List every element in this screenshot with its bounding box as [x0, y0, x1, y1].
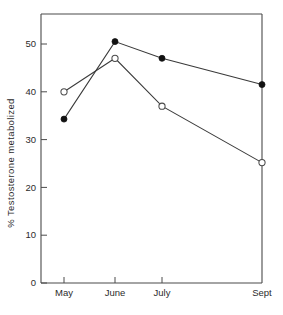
y-tick-label-30: 30: [25, 134, 36, 145]
y-tick-label-10: 10: [25, 229, 36, 240]
x-tick-label-may: May: [55, 287, 73, 298]
data-point-open-sept: [259, 160, 265, 166]
x-tick-label-july: July: [154, 287, 171, 298]
line-chart-svg: 0 10 20 30 40 50 May June July Sept % Te…: [0, 0, 283, 315]
y-tick-label-50: 50: [25, 38, 36, 49]
y-tick-label-40: 40: [25, 86, 36, 97]
data-point-open-june: [112, 55, 118, 61]
y-tick-label-20: 20: [25, 182, 36, 193]
y-tick-label-0: 0: [31, 277, 36, 288]
y-axis-title: % Testosterone metabolized: [5, 98, 16, 228]
data-point-filled-may: [61, 116, 67, 122]
x-tick-label-june: June: [105, 287, 126, 298]
x-tick-label-sept: Sept: [252, 287, 272, 298]
data-point-filled-sept: [259, 82, 265, 88]
chart-background: [0, 0, 283, 315]
data-point-filled-june: [112, 39, 118, 45]
data-point-open-may: [61, 89, 67, 95]
data-point-open-july: [159, 103, 165, 109]
data-point-filled-july: [159, 55, 165, 61]
chart-figure: 0 10 20 30 40 50 May June July Sept % Te…: [0, 0, 283, 315]
